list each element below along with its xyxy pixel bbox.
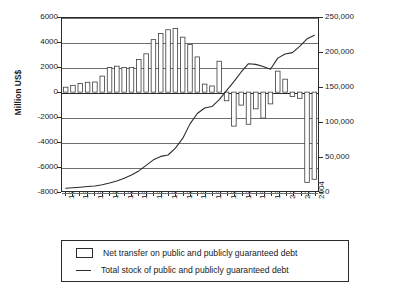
y-axis-left-tick-label: -8000 [38,188,58,196]
legend-line-icon [76,270,91,271]
bar [261,92,266,118]
bar [85,82,90,92]
bar [144,54,149,92]
legend-label-net-transfer: Net transfer on public and publicly guar… [103,248,297,258]
y-axis-left-tick-label: -6000 [38,163,58,171]
legend-label-total-stock: Total stock of public and publicly guara… [101,265,289,275]
bar [188,45,193,93]
bar [217,61,222,92]
bar [107,67,112,92]
y-axis-left-tick-label: 4000 [40,38,58,46]
bar [129,67,134,92]
bar [246,92,251,124]
bar [268,92,273,104]
bar [71,85,76,92]
y-axis-right-tick-label: 150,000 [325,83,354,91]
bar [115,66,120,92]
y-axis-right-tick-mark [319,87,323,88]
bar [166,30,171,92]
gridline [62,193,318,194]
y-axis-right-tick-label: 100,000 [325,118,354,126]
bar [202,84,207,92]
bar [239,92,244,105]
chart-figure: Million US$ -8000-6000-4000-200002000400… [0,0,394,292]
bar [297,92,302,98]
bar [210,86,215,92]
bar [78,83,83,92]
bar [137,59,142,92]
y-axis-right-tick-label: 200,000 [325,48,354,56]
y-axis-right-tick-label: 250,000 [325,13,354,21]
chart-legend: Net transfer on public and publicly guar… [61,240,349,282]
series-layer [62,18,318,191]
bar [173,29,178,93]
bar [158,33,163,92]
legend-entry-net-transfer: Net transfer on public and publicly guar… [76,248,297,258]
y-axis-left-tick-label: 6000 [40,13,58,21]
y-axis-right-tick-label: 50,000 [325,153,349,161]
legend-box-icon [76,248,93,258]
y-axis-left-tick-mark [57,192,61,193]
bar [290,92,295,96]
bar [312,92,317,179]
bar [254,92,259,109]
y-axis-left-tick-label: -4000 [38,138,58,146]
bar [180,37,185,92]
bar [305,92,310,182]
y-axis-left-tick-label: -2000 [38,113,58,121]
bar-series [63,29,316,183]
bar [151,40,156,93]
bar [195,57,200,92]
y-axis-left-title: Million US$ [14,53,23,133]
bar [63,87,68,92]
y-axis-right-tick-mark [319,122,323,123]
bar [232,92,237,126]
y-axis-right-tick-mark [319,157,323,158]
bar [283,79,288,92]
bar [276,71,281,92]
bar [93,82,98,92]
legend-entry-total-stock: Total stock of public and publicly guara… [76,265,289,275]
x-axis-tick-label: 2004 [318,181,326,199]
y-axis-right-tick-mark [319,52,323,53]
y-axis-left-tick-label: 2000 [40,63,58,71]
bar [122,67,127,92]
plot-area [61,17,319,192]
y-axis-right-tick-mark [319,17,323,18]
bar [100,76,105,92]
